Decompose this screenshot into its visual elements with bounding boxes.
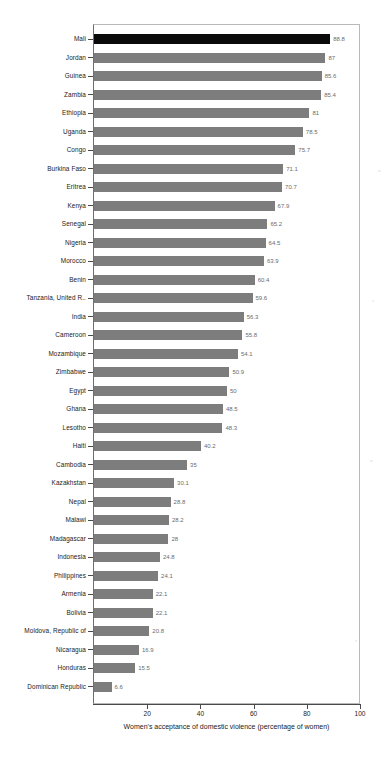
- x-axis-tick-label: 20: [144, 710, 151, 717]
- bar-value-label: 30.1: [177, 474, 189, 492]
- bar: [94, 386, 227, 396]
- category-label: Jordan: [66, 49, 86, 67]
- bar-value-label: 22.1: [156, 604, 168, 622]
- bar-row: Nicaragua16.9: [0, 641, 388, 659]
- category-label: Armenia: [62, 585, 87, 603]
- bar-value-label: 59.6: [256, 289, 268, 307]
- category-label: Nigeria: [65, 234, 86, 252]
- bar-value-label: 22.1: [156, 585, 168, 603]
- category-label: Egypt: [69, 382, 86, 400]
- bar: [94, 645, 139, 655]
- bar-value-label: 67.9: [278, 197, 290, 215]
- bar: [94, 460, 187, 470]
- y-axis-tick: [88, 242, 93, 243]
- category-label: Honduras: [57, 659, 86, 677]
- bar-value-label: 6.6: [115, 678, 123, 696]
- y-axis-tick: [88, 594, 93, 595]
- y-axis-tick: [88, 131, 93, 132]
- y-axis-tick: [88, 113, 93, 114]
- bar: [94, 201, 275, 211]
- bar-value-label: 88.8: [333, 30, 345, 48]
- y-axis-tick: [88, 575, 93, 576]
- category-label: Lesotho: [63, 419, 86, 437]
- y-axis-tick: [88, 649, 93, 650]
- bar: [94, 127, 303, 137]
- y-axis-tick: [88, 57, 93, 58]
- bar: [94, 534, 168, 544]
- category-label: Malawi: [66, 511, 87, 529]
- y-axis-tick: [88, 612, 93, 613]
- category-label: Congo: [67, 141, 86, 159]
- bar-row: Jordan87: [0, 49, 388, 67]
- bar-row: Nepal28.8: [0, 493, 388, 511]
- x-axis-line: [93, 704, 360, 705]
- bar-row: Morocco63.9: [0, 252, 388, 270]
- bar-value-label: 81: [312, 104, 319, 122]
- bar-row: Moldova, Republic of20.8: [0, 622, 388, 640]
- bar-value-label: 85.6: [325, 67, 337, 85]
- bar: [94, 663, 135, 673]
- bar-value-label: 55.8: [245, 326, 257, 344]
- bar-value-label: 15.5: [138, 659, 150, 677]
- y-axis-tick: [88, 538, 93, 539]
- bar: [94, 145, 295, 155]
- bar-value-label: 60.4: [258, 271, 270, 289]
- scan-speck: [355, 640, 357, 642]
- bar-row: Zimbabwe50.9: [0, 363, 388, 381]
- y-axis-tick: [88, 168, 93, 169]
- x-axis-tick: [360, 704, 361, 709]
- bar-value-label: 56.3: [247, 308, 259, 326]
- bar: [94, 626, 149, 636]
- bar-row: Eritrea70.7: [0, 178, 388, 196]
- y-axis-tick: [88, 94, 93, 95]
- x-axis-tick-label: 40: [197, 710, 204, 717]
- y-axis-tick: [88, 224, 93, 225]
- bar-value-label: 28.8: [174, 493, 186, 511]
- scan-speck: [372, 300, 374, 302]
- bar-row: Indonesia24.8: [0, 548, 388, 566]
- category-label: Madagascar: [50, 530, 86, 548]
- y-axis-tick: [88, 483, 93, 484]
- bar-row: Kenya67.9: [0, 197, 388, 215]
- bar-row: Burkina Faso71.1: [0, 160, 388, 178]
- bar-row: Honduras15.5: [0, 659, 388, 677]
- y-axis-tick: [88, 520, 93, 521]
- bar-row: Cameroon55.8: [0, 326, 388, 344]
- bar-value-label: 28: [171, 530, 178, 548]
- bar-value-label: 35: [190, 456, 197, 474]
- y-axis-tick: [88, 335, 93, 336]
- bar-value-label: 48.3: [225, 419, 237, 437]
- bar-row: Senegal65.2: [0, 215, 388, 233]
- category-label: Zambia: [64, 86, 86, 104]
- category-label: Indonesia: [57, 548, 86, 566]
- bar-row: Congo75.7: [0, 141, 388, 159]
- category-label: Nepal: [69, 493, 86, 511]
- category-label: Haiti: [73, 437, 86, 455]
- bar-row: Mali88.8: [0, 30, 388, 48]
- bar-value-label: 70.7: [285, 178, 297, 196]
- bar: [94, 571, 158, 581]
- x-axis-title: Women's acceptance of domestic violence …: [93, 723, 360, 730]
- bar-row: Lesotho48.3: [0, 419, 388, 437]
- y-axis-tick: [88, 39, 93, 40]
- x-axis-tick-label: 80: [303, 710, 310, 717]
- bar: [94, 497, 171, 507]
- bar-value-label: 50: [230, 382, 237, 400]
- y-axis-tick: [88, 76, 93, 77]
- y-axis-tick: [88, 187, 93, 188]
- bar-value-label: 48.5: [226, 400, 238, 418]
- x-axis-tick: [200, 704, 201, 709]
- y-axis-tick: [88, 557, 93, 558]
- bar-value-label: 64.5: [269, 234, 281, 252]
- y-axis-tick: [88, 501, 93, 502]
- bar: [94, 367, 229, 377]
- scan-speck: [370, 460, 373, 462]
- bar-row: Benin60.4: [0, 271, 388, 289]
- bar: [94, 34, 330, 44]
- bar: [94, 682, 112, 692]
- bar: [94, 478, 174, 488]
- bar-row: Egypt50: [0, 382, 388, 400]
- category-label: Kazakhstan: [52, 474, 86, 492]
- bar-value-label: 85.4: [324, 86, 336, 104]
- bar: [94, 238, 266, 248]
